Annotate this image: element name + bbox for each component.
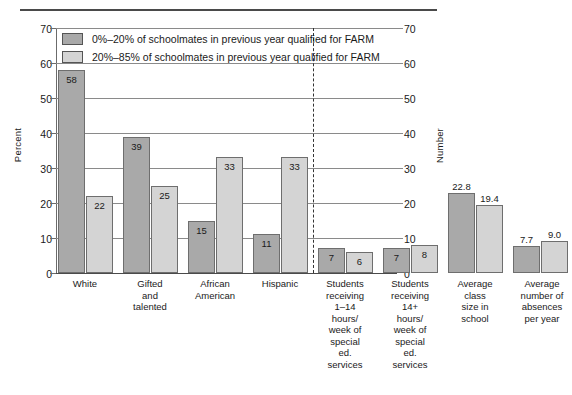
- category-label-sped-1-14-line1: Students: [310, 278, 380, 290]
- category-label-class-size-line3: size in: [440, 301, 510, 313]
- category-label-gifted: Gifted and talented: [115, 278, 185, 313]
- category-label-sped-14plus-line4: hours/: [375, 313, 445, 325]
- category-label-gifted-line1: Gifted: [115, 278, 185, 290]
- tickmark-left-50: [50, 98, 56, 99]
- y-tick-left-30: 30: [0, 163, 52, 175]
- bar-gifted-high[interactable]: 25: [151, 186, 178, 273]
- bar-value-white-high: 22: [87, 201, 112, 211]
- bar-value-class-size-high: 19.4: [471, 194, 508, 204]
- bar-white-low[interactable]: 58: [58, 70, 85, 273]
- y-tick-left-20: 20: [0, 198, 52, 210]
- x-axis-category-labels: White Gifted and talented African Americ…: [57, 278, 396, 390]
- x-axis-line: [56, 273, 397, 274]
- bar-sped-14plus-low[interactable]: 7: [383, 248, 410, 273]
- category-label-sped-14plus-line2: receiving: [375, 290, 445, 302]
- category-label-sped-14plus-line7: ed.: [375, 347, 445, 359]
- bar-sped-14plus-high[interactable]: 8: [411, 245, 438, 273]
- tickmark-left-60: [50, 63, 56, 64]
- category-label-sped-14plus-line8: services: [375, 359, 445, 371]
- tickmark-left-40: [50, 133, 56, 134]
- category-label-sped-1-14-line8: services: [310, 359, 380, 371]
- category-label-african-american-line2: American: [180, 290, 250, 302]
- bar-african-american-low[interactable]: 15: [188, 221, 215, 273]
- y-tick-left-50: 50: [0, 93, 52, 105]
- y-tick-left-10: 10: [0, 233, 52, 245]
- category-label-class-size-line2: class: [440, 290, 510, 302]
- category-label-absences-line1: Average: [505, 278, 572, 290]
- category-label-sped-1-14-line3: 1–14: [310, 301, 380, 313]
- y-axis-title-number: Number: [434, 128, 445, 163]
- category-label-sped-1-14-line4: hours/: [310, 313, 380, 325]
- bar-value-sped-1-14-high: 6: [347, 257, 372, 267]
- bar-class-size-low[interactable]: 22.8: [448, 193, 475, 273]
- category-label-absences-line3: absences: [505, 301, 572, 313]
- category-label-absences: Average number of absences per year: [505, 278, 572, 324]
- y-tick-left-40: 40: [0, 128, 52, 140]
- bar-value-sped-14plus-high: 8: [412, 250, 437, 260]
- category-label-sped-14plus-line5: week of: [375, 324, 445, 336]
- bar-value-absences-high: 9.0: [536, 230, 572, 240]
- category-label-absences-line2: number of: [505, 290, 572, 302]
- bar-value-hispanic-low: 11: [254, 239, 279, 249]
- tickmark-left-10: [50, 238, 56, 239]
- category-label-hispanic-line1: Hispanic: [245, 278, 315, 290]
- y-tick-right-20: 20: [404, 198, 444, 210]
- category-label-sped-1-14-line6: special: [310, 336, 380, 348]
- tickmark-left-30: [50, 168, 56, 169]
- y-tick-left-0: 0: [0, 268, 52, 280]
- bar-sped-1-14-high[interactable]: 6: [346, 252, 373, 273]
- bar-value-white-low: 58: [59, 75, 84, 85]
- category-label-class-size-line4: school: [440, 313, 510, 325]
- category-label-absences-line4: per year: [505, 313, 572, 325]
- bar-value-gifted-low: 39: [124, 142, 149, 152]
- bar-value-class-size-low: 22.8: [443, 182, 480, 192]
- bar-absences-low[interactable]: 7.7: [513, 246, 540, 273]
- bar-absences-high[interactable]: 9.0: [541, 241, 568, 273]
- bar-white-high[interactable]: 22: [86, 196, 113, 273]
- bar-value-african-american-high: 33: [217, 162, 242, 172]
- category-label-class-size-line1: Average: [440, 278, 510, 290]
- category-label-white-line1: White: [50, 278, 120, 290]
- category-label-sped-1-14-line5: week of: [310, 324, 380, 336]
- tickmark-left-70: [50, 28, 56, 29]
- category-label-sped-14plus-line3: 14+: [375, 301, 445, 313]
- y-axis-title-percent: Percent: [12, 128, 23, 162]
- category-label-white: White: [50, 278, 120, 290]
- bar-class-size-high[interactable]: 19.4: [476, 205, 503, 273]
- category-label-gifted-line3: talented: [115, 301, 185, 313]
- y-tick-right-50: 50: [404, 93, 444, 105]
- bar-value-gifted-high: 25: [152, 191, 177, 201]
- bar-value-hispanic-high: 33: [282, 162, 307, 172]
- y-tick-right-70: 70: [404, 23, 444, 35]
- bar-hispanic-high[interactable]: 33: [281, 157, 308, 273]
- category-label-class-size: Average class size in school: [440, 278, 510, 324]
- y-tick-left-60: 60: [0, 58, 52, 70]
- bar-hispanic-low[interactable]: 11: [253, 234, 280, 273]
- bar-value-sped-14plus-low: 7: [384, 253, 409, 263]
- category-label-sped-14plus: Students receiving 14+ hours/ week of sp…: [375, 278, 445, 370]
- y-tick-right-10: 10: [404, 233, 444, 245]
- category-label-sped-1-14: Students receiving 1–14 hours/ week of s…: [310, 278, 380, 370]
- y-tick-left-70: 70: [0, 23, 52, 35]
- category-label-sped-1-14-line2: receiving: [310, 290, 380, 302]
- bar-gifted-low[interactable]: 39: [123, 137, 150, 273]
- tickmark-left-20: [50, 203, 56, 204]
- category-label-sped-14plus-line1: Students: [375, 278, 445, 290]
- category-label-hispanic: Hispanic: [245, 278, 315, 290]
- category-label-gifted-line2: and: [115, 290, 185, 302]
- bar-value-sped-1-14-low: 7: [319, 253, 344, 263]
- category-label-african-american: African American: [180, 278, 250, 301]
- y-tick-right-30: 30: [404, 163, 444, 175]
- bar-group-container: 58 22 39 25 15 33 11 33 7 6: [57, 28, 396, 273]
- tickmark-left-0: [50, 273, 56, 274]
- top-divider-rule: [20, 9, 437, 11]
- category-label-sped-14plus-line6: special: [375, 336, 445, 348]
- category-label-african-american-line1: African: [180, 278, 250, 290]
- bar-value-african-american-low: 15: [189, 226, 214, 236]
- y-tick-right-60: 60: [404, 58, 444, 70]
- category-label-sped-1-14-line7: ed.: [310, 347, 380, 359]
- bar-african-american-high[interactable]: 33: [216, 157, 243, 273]
- bar-sped-1-14-low[interactable]: 7: [318, 248, 345, 273]
